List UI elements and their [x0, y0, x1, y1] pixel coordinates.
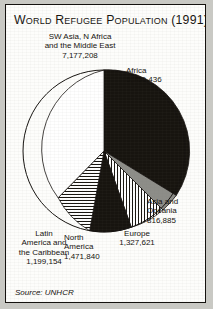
pie-label-europe: Europe 1,327,621	[111, 229, 163, 248]
pie-label-africa: Africa 5,760,436	[126, 66, 196, 85]
pie-label-latin-america: Latin America and the Caribbean 1,199,15…	[8, 229, 80, 267]
source-note: Source: UNHCR	[15, 288, 74, 297]
pie-label-asia-oceania: Asia and Oceania 816,885	[147, 197, 206, 225]
chart-figure: World Refugee Population (1991)	[5, 4, 206, 303]
pie-label-sw-asia: SW Asia, N Africa and the Middle East 7,…	[10, 32, 150, 60]
